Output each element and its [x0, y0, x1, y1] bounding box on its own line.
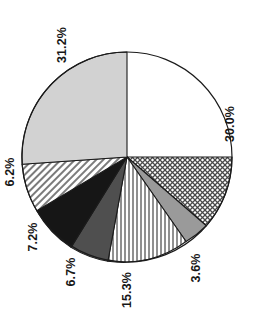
- pie-label-31-2: 31.2%: [55, 27, 69, 63]
- pie-chart-svg: 30.0% 3.6% 15.3% 6.7% 7.2% 6.2% 31.2%: [0, 0, 264, 312]
- pie-label-6-7: 6.7%: [64, 257, 78, 286]
- pie-slices: [22, 52, 232, 262]
- pie-label-7-2: 7.2%: [26, 222, 40, 251]
- pie-label-6-2: 6.2%: [3, 157, 17, 186]
- pie-label-15-3: 15.3%: [120, 272, 134, 308]
- pie-label-30-0: 30.0%: [223, 106, 237, 142]
- clipped-edge-text: ==: [251, 16, 263, 50]
- pie-label-3-6: 3.6%: [189, 253, 203, 282]
- pie-chart-figure: 30.0% 3.6% 15.3% 6.7% 7.2% 6.2% 31.2% ==: [0, 0, 264, 312]
- pie-slice-31-2[interactable]: [22, 52, 127, 164]
